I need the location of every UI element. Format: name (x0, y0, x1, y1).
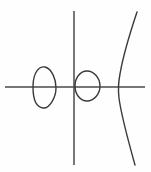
curve-diagram-figure: Plane curves with coordinate axes (0, 0, 151, 172)
curve-diagram-canvas (0, 0, 151, 172)
